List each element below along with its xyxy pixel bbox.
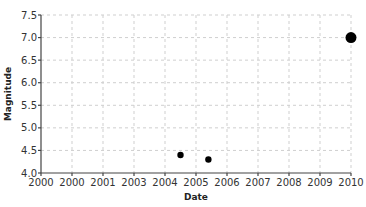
data-point	[346, 32, 357, 43]
y-tick-label: 6.5	[21, 55, 37, 66]
x-axis-ticks: 2000200020012003200420052006200720082009…	[28, 173, 363, 188]
y-tick-label: 4.5	[21, 145, 37, 156]
data-point	[177, 152, 183, 158]
y-tick-label: 5.0	[21, 122, 37, 133]
y-tick-label: 7.5	[21, 10, 37, 21]
y-tick-label: 4.0	[21, 168, 37, 179]
x-tick-label: 2005	[183, 177, 208, 188]
scatter-chart: 2000200020012003200420052006200720082009…	[0, 0, 366, 207]
x-tick-label: 2003	[121, 177, 146, 188]
x-tick-label: 2000	[59, 177, 84, 188]
data-points	[177, 32, 356, 163]
y-axis-ticks: 4.04.55.05.56.06.57.07.5	[21, 10, 41, 179]
x-tick-label: 2009	[307, 177, 332, 188]
x-tick-label: 2007	[245, 177, 270, 188]
x-tick-label: 2001	[90, 177, 115, 188]
y-tick-label: 6.0	[21, 77, 37, 88]
grid-lines	[41, 15, 351, 173]
y-axis-title: Magnitude	[3, 67, 13, 121]
y-tick-label: 5.5	[21, 100, 37, 111]
x-tick-label: 2008	[276, 177, 301, 188]
x-tick-label: 2004	[152, 177, 177, 188]
data-point	[205, 156, 211, 162]
x-tick-label: 2006	[214, 177, 239, 188]
x-tick-label: 2000	[28, 177, 53, 188]
x-axis-title: Date	[184, 192, 208, 202]
y-tick-label: 7.0	[21, 32, 37, 43]
x-tick-label: 2010	[338, 177, 363, 188]
